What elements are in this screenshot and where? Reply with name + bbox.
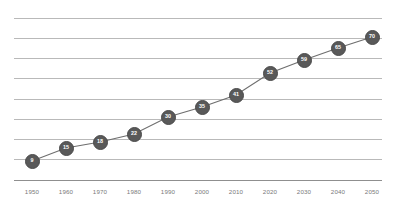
x-tick-label: 2030 bbox=[297, 188, 311, 195]
x-tick-label: 2010 bbox=[229, 188, 243, 195]
x-tick-label: 2050 bbox=[365, 188, 379, 195]
data-point-marker[interactable]: 52 bbox=[263, 66, 278, 81]
data-point-marker[interactable]: 18 bbox=[93, 135, 108, 150]
line-chart: 9 15 18 22 30 35 41 52 59 65 70 1950 196… bbox=[0, 0, 396, 209]
x-tick-label: 1970 bbox=[93, 188, 107, 195]
data-point-marker[interactable]: 9 bbox=[25, 154, 40, 169]
data-point-marker[interactable]: 35 bbox=[195, 100, 210, 115]
x-tick-label: 1950 bbox=[25, 188, 39, 195]
x-tick-label: 2040 bbox=[331, 188, 345, 195]
x-tick-label: 1990 bbox=[161, 188, 175, 195]
data-point-marker[interactable]: 65 bbox=[331, 41, 346, 56]
x-tick-label: 1980 bbox=[127, 188, 141, 195]
x-tick-label: 2020 bbox=[263, 188, 277, 195]
data-point-marker[interactable]: 15 bbox=[59, 141, 74, 156]
data-point-marker[interactable]: 30 bbox=[161, 110, 176, 125]
data-point-marker[interactable]: 70 bbox=[365, 30, 380, 45]
data-point-marker[interactable]: 41 bbox=[229, 88, 244, 103]
x-tick-label: 2000 bbox=[195, 188, 209, 195]
data-point-marker[interactable]: 59 bbox=[297, 53, 312, 68]
data-point-marker[interactable]: 22 bbox=[127, 127, 142, 142]
x-tick-label: 1960 bbox=[59, 188, 73, 195]
